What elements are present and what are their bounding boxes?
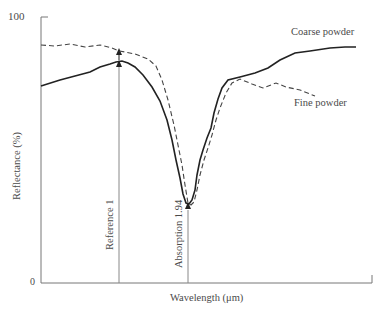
chart-plot [0, 0, 383, 311]
annotation-absorption: Absorption 1.94 [173, 200, 184, 268]
series-fine-powder [41, 44, 315, 205]
x-axis-label: Wavelength (μm) [170, 292, 243, 303]
legend-fine-powder: Fine powder [294, 97, 347, 108]
legend-coarse-powder: Coarse powder [291, 26, 354, 37]
y-tick-label-100: 100 [8, 10, 25, 22]
annotation-reference: Reference 1 [104, 200, 115, 250]
y-tick-label-0: 0 [30, 276, 35, 287]
y-axis-label: Reflectance (%) [11, 132, 22, 200]
